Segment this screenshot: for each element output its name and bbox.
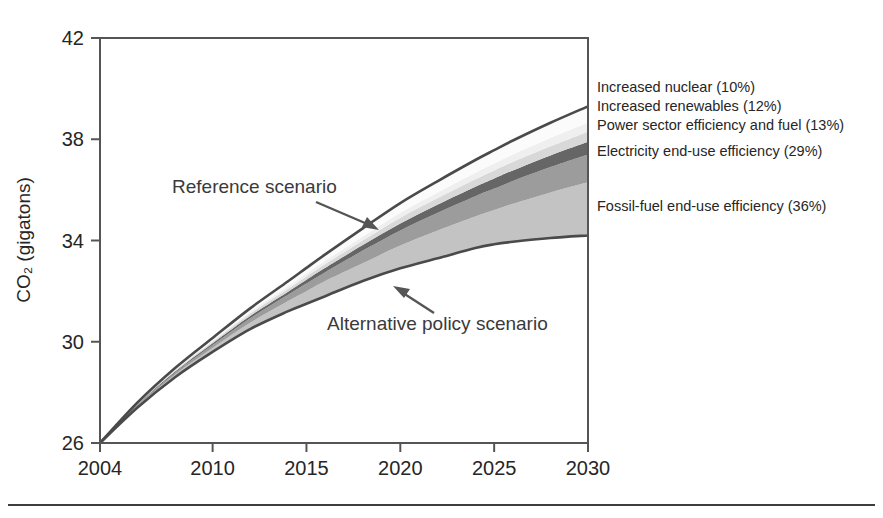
legend-item-label: Electricity end-use efficiency (29%) bbox=[597, 143, 822, 159]
area-band bbox=[100, 154, 588, 443]
chart-canvas: 2630343842 200420102015202020252030 CO₂ … bbox=[0, 0, 883, 518]
annotation-alternative-label: Alternative policy scenario bbox=[327, 313, 548, 334]
y-tick-label: 34 bbox=[62, 230, 84, 252]
x-tick-label: 2020 bbox=[378, 457, 423, 479]
x-axis-ticks bbox=[100, 443, 588, 452]
chart-figure: 2630343842 200420102015202020252030 CO₂ … bbox=[0, 0, 883, 518]
x-tick-label: 2015 bbox=[284, 457, 329, 479]
y-axis-title: CO₂ (gigatons) bbox=[13, 177, 34, 303]
x-tick-label: 2010 bbox=[190, 457, 235, 479]
x-tick-label: 2030 bbox=[566, 457, 611, 479]
y-tick-label: 38 bbox=[62, 128, 84, 150]
y-tick-label: 30 bbox=[62, 331, 84, 353]
legend-item-label: Increased nuclear (10%) bbox=[597, 79, 755, 95]
x-tick-label: 2004 bbox=[78, 457, 123, 479]
legend-item-label: Power sector efficiency and fuel (13%) bbox=[597, 117, 844, 133]
x-tick-label: 2025 bbox=[472, 457, 517, 479]
annotation-alternative-policy-scenario: Alternative policy scenario bbox=[327, 286, 548, 334]
y-tick-label: 26 bbox=[62, 432, 84, 454]
y-axis-ticks bbox=[91, 38, 100, 443]
annotation-reference-label: Reference scenario bbox=[172, 176, 337, 197]
legend-item-label: Fossil-fuel end-use efficiency (36%) bbox=[597, 198, 826, 214]
y-axis-tick-labels: 2630343842 bbox=[62, 27, 84, 454]
annotation-reference-scenario: Reference scenario bbox=[172, 176, 379, 230]
stacked-area-bands bbox=[100, 106, 588, 443]
annotation-reference-arrow-shaft bbox=[316, 202, 372, 226]
y-tick-label: 42 bbox=[62, 27, 84, 49]
legend: Increased nuclear (10%)Increased renewab… bbox=[597, 79, 844, 214]
legend-item-label: Increased renewables (12%) bbox=[597, 98, 782, 114]
x-axis-tick-labels: 200420102015202020252030 bbox=[78, 457, 611, 479]
